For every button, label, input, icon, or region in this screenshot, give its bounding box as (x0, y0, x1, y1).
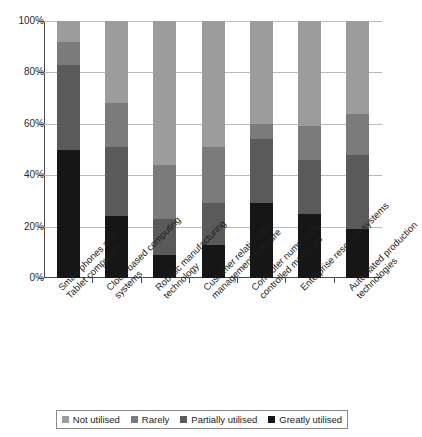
legend-item[interactable]: Partially utilised (180, 415, 257, 425)
legend-swatch-icon (180, 416, 187, 423)
legend-label: Rarely (142, 415, 169, 425)
legend-swatch-icon (268, 416, 275, 423)
chart-legend: Not utilisedRarelyPartially utilisedGrea… (56, 410, 348, 429)
legend-item[interactable]: Not utilised (62, 415, 120, 425)
y-axis: 0%20%40%60%80%100% (0, 21, 44, 279)
y-axis-tick-mark (38, 278, 44, 279)
x-axis-labels: Smart phones andTablet computersCloud-ba… (0, 283, 399, 401)
legend-item[interactable]: Greatly utilised (268, 415, 342, 425)
legend-swatch-icon (62, 416, 69, 423)
legend-label: Not utilised (73, 415, 120, 425)
legend-item[interactable]: Rarely (131, 415, 169, 425)
legend-swatch-icon (131, 416, 138, 423)
legend-label: Partially utilised (191, 415, 257, 425)
legend-label: Greatly utilised (279, 415, 342, 425)
